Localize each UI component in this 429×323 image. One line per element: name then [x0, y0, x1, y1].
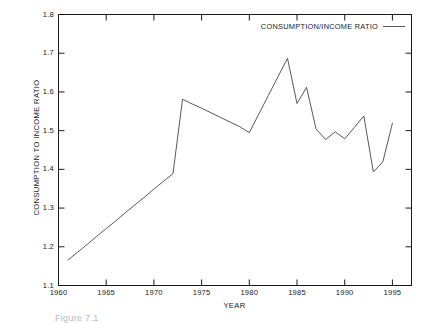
x-axis-tick-marks: [59, 15, 393, 286]
x-tick-label: 1990: [325, 289, 365, 297]
x-tick-label: 1980: [229, 289, 269, 297]
chart-legend: CONSUMPTION/INCOME RATIO: [219, 20, 405, 32]
plot-frame: [59, 15, 412, 286]
figure-caption: Figure 7.1: [55, 313, 99, 323]
x-tick-label: 1965: [86, 289, 126, 297]
y-axis-tick-marks: [59, 15, 412, 286]
x-tick-label: 1975: [182, 289, 222, 297]
legend-entry-label: CONSUMPTION/INCOME RATIO: [261, 22, 378, 31]
legend-line-swatch: [383, 26, 405, 27]
x-axis-tick-labels: 19601965197019751980198519901995: [0, 289, 429, 301]
x-tick-label: 1970: [134, 289, 174, 297]
data-series-line: [68, 58, 392, 260]
y-axis-title: CONSUMPTION TO INCOME RATIO: [32, 28, 41, 268]
x-tick-label: 1985: [277, 289, 317, 297]
x-tick-label: 1960: [39, 289, 79, 297]
x-axis-title: YEAR: [58, 301, 411, 310]
x-tick-label: 1995: [372, 289, 412, 297]
y-tick-label: 1.8: [28, 11, 54, 19]
